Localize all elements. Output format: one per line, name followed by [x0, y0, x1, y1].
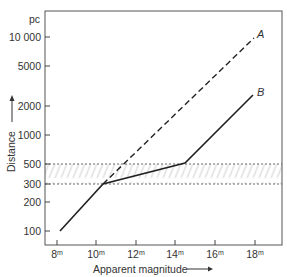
- y-tick-label: 10 000: [9, 31, 41, 43]
- svg-text:8m: 8m: [51, 248, 63, 260]
- y-tick-label: 100: [23, 225, 41, 237]
- x-tick-labels: 8m 10m 12m 14m 16m 18m: [51, 248, 264, 260]
- curve-a-label: A: [256, 28, 264, 40]
- svg-text:12m: 12m: [127, 248, 145, 260]
- y-axis-title: Distance: [5, 131, 17, 172]
- plot-frame: [45, 11, 282, 245]
- svg-text:10m: 10m: [87, 248, 105, 260]
- y-tick-label: 300: [23, 178, 41, 190]
- x-axis-title: Apparent magnitude: [93, 263, 188, 275]
- y-unit-label: pc: [29, 13, 40, 25]
- series-a-line: [103, 38, 254, 184]
- y-tick-label: 200: [23, 196, 41, 208]
- series-b-line: [60, 95, 253, 231]
- x-axis-ticks: [57, 240, 255, 245]
- svg-text:16m: 16m: [206, 248, 224, 260]
- svg-text:18m: 18m: [246, 248, 264, 260]
- chart: pc 10 000 5000 2000 1000 500 300 200 100…: [0, 0, 287, 277]
- y-axis-ticks: [45, 37, 50, 231]
- y-tick-label: 5000: [18, 60, 42, 72]
- y-axis-arrow-icon: [10, 95, 15, 122]
- x-axis-arrow-icon: [187, 267, 213, 272]
- y-tick-label: 2000: [18, 100, 42, 112]
- y-tick-label: 500: [23, 158, 41, 170]
- y-tick-label: 1000: [18, 129, 42, 141]
- curve-b-label: B: [257, 86, 264, 98]
- distance-band-300-500: [45, 164, 282, 184]
- svg-text:14m: 14m: [166, 248, 184, 260]
